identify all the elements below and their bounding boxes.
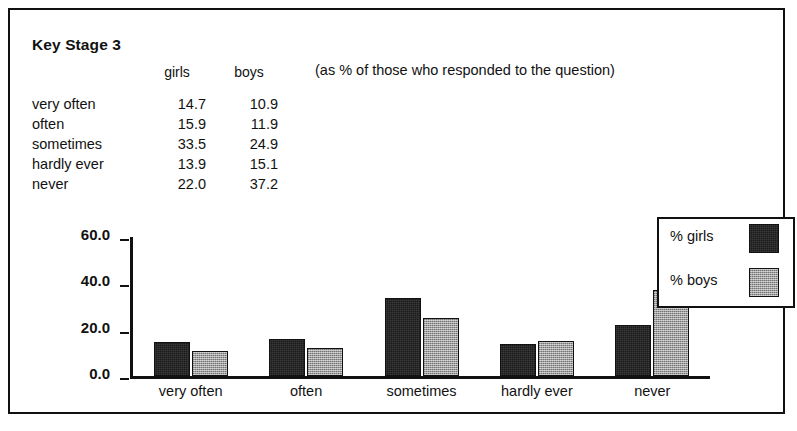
row-girls-value: 13.9	[152, 154, 206, 174]
bar-girls	[500, 344, 536, 376]
row-boys-value: 10.9	[224, 94, 278, 114]
bar-chart: 0.020.040.060.0 very oftenoftensometimes…	[32, 225, 732, 405]
table-row: hardly ever 13.9 15.1	[32, 154, 332, 174]
row-boys-value: 24.9	[224, 134, 278, 154]
bar-girls	[269, 339, 305, 376]
x-axis-line	[130, 376, 710, 379]
legend-swatch-boys	[749, 268, 779, 297]
row-label: hardly ever	[32, 154, 152, 174]
row-boys-value: 11.9	[224, 114, 278, 134]
page-title: Key Stage 3	[32, 36, 121, 54]
table-header-girls: girls	[150, 62, 204, 82]
bar-boys	[423, 318, 459, 376]
figure-page: Key Stage 3 girls boys very often 14.7 1…	[0, 0, 797, 431]
x-axis-label: hardly ever	[479, 383, 594, 399]
bar-girls	[385, 298, 421, 376]
row-boys-value: 37.2	[224, 174, 278, 194]
row-boys-value: 15.1	[224, 154, 278, 174]
legend-label-boys: % boys	[670, 272, 718, 288]
table-row: sometimes 33.5 24.9	[32, 134, 332, 154]
legend-label-girls: % girls	[670, 228, 714, 244]
row-girls-value: 14.7	[152, 94, 206, 114]
y-tick-mark	[120, 285, 129, 287]
y-tick-label: 60.0	[40, 226, 110, 243]
y-tick-mark	[120, 239, 129, 241]
table-header-boys: boys	[222, 62, 276, 82]
data-table: girls boys very often 14.7 10.9 often 15…	[32, 62, 332, 194]
y-tick-label: 0.0	[40, 365, 110, 382]
figure-border: Key Stage 3 girls boys very often 14.7 1…	[8, 8, 785, 414]
x-axis-label: very often	[133, 383, 248, 399]
table-row: often 15.9 11.9	[32, 114, 332, 134]
legend-item-girls: % girls	[659, 219, 793, 263]
bar-boys	[538, 341, 574, 376]
bar-boys	[307, 348, 343, 376]
y-tick-label: 20.0	[40, 319, 110, 336]
bar-girls	[154, 342, 190, 376]
table-row: never 22.0 37.2	[32, 174, 332, 194]
table-header-row: girls boys	[32, 62, 332, 82]
bar-boys	[192, 351, 228, 376]
row-girls-value: 15.9	[152, 114, 206, 134]
legend-swatch-girls	[749, 224, 779, 253]
row-girls-value: 22.0	[152, 174, 206, 194]
table-row: very often 14.7 10.9	[32, 94, 332, 114]
y-tick-mark	[120, 332, 129, 334]
bar-girls	[615, 325, 651, 376]
row-label: never	[32, 174, 152, 194]
row-girls-value: 33.5	[152, 134, 206, 154]
x-axis-label: sometimes	[364, 383, 479, 399]
row-label: very often	[32, 94, 152, 114]
row-label: sometimes	[32, 134, 152, 154]
x-axis-label: often	[248, 383, 363, 399]
row-label: often	[32, 114, 152, 134]
y-tick-mark	[120, 378, 129, 380]
legend-item-boys: % boys	[659, 263, 793, 307]
chart-legend: % girls % boys	[657, 217, 795, 308]
x-axis-label: never	[595, 383, 710, 399]
chart-note: (as % of those who responded to the ques…	[315, 62, 615, 78]
y-tick-label: 40.0	[40, 272, 110, 289]
plot-area	[133, 237, 710, 376]
